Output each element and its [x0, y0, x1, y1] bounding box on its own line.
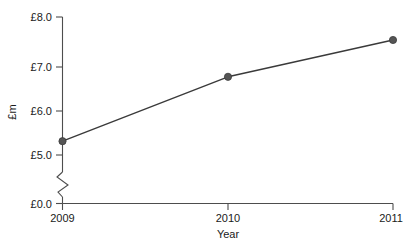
series-line: [63, 40, 394, 141]
y-tick-label-5: £5.0: [31, 149, 52, 161]
y-axis-break-icon: [57, 172, 68, 197]
y-tick-label-8: £8.0: [31, 11, 52, 23]
y-tick-label-7: £7.0: [31, 61, 52, 73]
series-markers: [59, 36, 397, 144]
chart-canvas: £8.0 £7.0 £6.0 £5.0 £0.0 £m 2009 2010 20…: [0, 0, 412, 249]
x-tick-label-2009: 2009: [50, 212, 74, 224]
y-axis-title: £m: [6, 104, 18, 119]
x-tick-label-2011: 2011: [379, 212, 403, 224]
y-tick-label-0: £0.0: [31, 198, 52, 210]
data-point-2011: [389, 36, 396, 43]
data-point-2010: [224, 73, 231, 80]
x-axis-title: Year: [217, 228, 240, 240]
data-point-2009: [59, 138, 66, 145]
line-chart-figure: £8.0 £7.0 £6.0 £5.0 £0.0 £m 2009 2010 20…: [0, 0, 412, 249]
series-group: [59, 36, 397, 144]
x-tick-label-2010: 2010: [216, 212, 240, 224]
y-tick-label-6: £6.0: [31, 105, 52, 117]
